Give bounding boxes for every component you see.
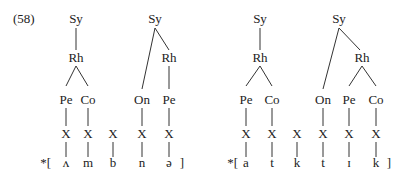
peak-node: Pe bbox=[60, 92, 73, 107]
right-syllable-2: Sy Rh On Pe Co bbox=[315, 11, 384, 126]
left-segment-tier: *[ ʌ m b n ə ] bbox=[40, 155, 184, 170]
left-syllable-1: Sy Rh Pe Co bbox=[60, 11, 96, 126]
syllable-node: Sy bbox=[332, 11, 346, 26]
segment: k bbox=[373, 155, 380, 170]
coda-node: Co bbox=[80, 92, 95, 107]
timing-slot: X bbox=[344, 126, 354, 141]
segment: n bbox=[139, 155, 146, 170]
rhyme-node: Rh bbox=[354, 50, 370, 65]
timing-slot: X bbox=[267, 126, 277, 141]
coda-node: Co bbox=[264, 92, 279, 107]
branch-line bbox=[260, 66, 272, 86]
rhyme-node: Rh bbox=[252, 50, 268, 65]
segment: t bbox=[270, 155, 274, 170]
example-number: (58) bbox=[13, 11, 35, 26]
segment: k bbox=[294, 155, 301, 170]
branch-line bbox=[142, 28, 155, 89]
branch-line bbox=[323, 28, 339, 89]
branch-line bbox=[339, 28, 360, 50]
branch-line bbox=[155, 28, 169, 50]
peak-node: Pe bbox=[240, 92, 253, 107]
syllable-node: Sy bbox=[69, 11, 83, 26]
segment: ɪ bbox=[347, 155, 351, 170]
syllable-node: Sy bbox=[148, 11, 162, 26]
onset-node: On bbox=[134, 92, 150, 107]
timing-slot: X bbox=[164, 126, 174, 141]
branch-line bbox=[349, 66, 362, 86]
coda-node: Co bbox=[368, 92, 383, 107]
ungrammatical-open-bracket: *[ bbox=[227, 155, 238, 170]
left-diagram: Sy Rh Pe Co Sy Rh On Pe X X X X bbox=[40, 11, 184, 170]
segment: m bbox=[83, 155, 93, 170]
ungrammatical-open-bracket: *[ bbox=[40, 155, 51, 170]
rhyme-node: Rh bbox=[161, 50, 177, 65]
peak-node: Pe bbox=[343, 92, 356, 107]
timing-slot: X bbox=[371, 126, 381, 141]
timing-slot: X bbox=[318, 126, 328, 141]
segment: a bbox=[243, 155, 249, 170]
branch-line bbox=[66, 66, 76, 86]
right-diagram: Sy Rh Pe Co Sy Rh On Pe Co X bbox=[227, 11, 391, 170]
segment: t bbox=[321, 155, 325, 170]
peak-node: Pe bbox=[163, 92, 176, 107]
branch-line bbox=[362, 66, 376, 86]
branch-line bbox=[246, 66, 260, 86]
right-segment-tier: *[ a t k t ɪ k ] bbox=[227, 155, 391, 170]
segment: ə bbox=[166, 155, 172, 170]
close-bracket: ] bbox=[387, 155, 391, 170]
right-syllable-1: Sy Rh Pe Co bbox=[240, 11, 280, 126]
right-timing-tier: X X X X X X bbox=[241, 126, 381, 157]
timing-slot: X bbox=[292, 126, 302, 141]
segment: b bbox=[110, 155, 117, 170]
segment: ʌ bbox=[63, 155, 70, 170]
timing-slot: X bbox=[241, 126, 251, 141]
onset-node: On bbox=[315, 92, 331, 107]
syllable-structure-diagram: (58) Sy Rh Pe Co Sy Rh On Pe bbox=[0, 0, 396, 183]
left-timing-tier: X X X X X bbox=[61, 126, 174, 157]
timing-slot: X bbox=[61, 126, 71, 141]
timing-slot: X bbox=[137, 126, 147, 141]
timing-slot: X bbox=[83, 126, 93, 141]
branch-line bbox=[76, 66, 88, 86]
left-syllable-2: Sy Rh On Pe bbox=[134, 11, 177, 126]
timing-slot: X bbox=[108, 126, 118, 141]
rhyme-node: Rh bbox=[68, 50, 84, 65]
close-bracket: ] bbox=[180, 155, 184, 170]
syllable-node: Sy bbox=[253, 11, 267, 26]
